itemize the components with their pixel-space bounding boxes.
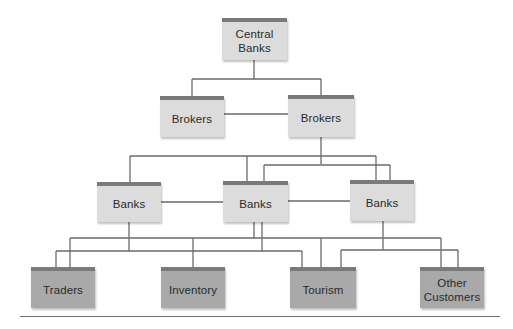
node-label: Banks <box>366 196 398 210</box>
node-label: Inventory <box>169 283 217 297</box>
node-traders: Traders <box>31 267 95 308</box>
bottom-divider <box>20 316 500 317</box>
node-banks-left: Banks <box>97 182 161 222</box>
node-label: Tourism <box>303 283 344 297</box>
node-label-line2: Banks <box>236 41 274 55</box>
node-brokers-left: Brokers <box>160 96 224 137</box>
node-banks-middle: Banks <box>223 181 288 222</box>
node-brokers-right: Brokers <box>288 95 354 137</box>
node-label: Traders <box>43 283 83 297</box>
node-label: Banks <box>113 197 145 211</box>
node-banks-right: Banks <box>350 180 414 221</box>
node-label: Brokers <box>301 111 341 125</box>
node-label: Brokers <box>172 112 212 126</box>
node-label-line1: Central <box>236 27 274 41</box>
node-label-line1: Other <box>424 276 481 290</box>
node-other-customers: Other Customers <box>420 267 484 308</box>
node-inventory: Inventory <box>161 267 225 308</box>
node-label-line2: Customers <box>424 290 481 304</box>
node-central-banks: Central Banks <box>222 18 287 60</box>
node-label: Banks <box>239 197 271 211</box>
node-tourism: Tourism <box>290 267 356 308</box>
currency-market-diagram: Central Banks Brokers Brokers Banks Bank… <box>0 0 513 329</box>
